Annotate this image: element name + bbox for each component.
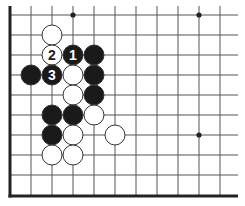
black-stone-icon	[84, 85, 104, 105]
white-stone	[42, 25, 62, 45]
white-stone	[63, 65, 83, 85]
black-stone	[21, 65, 41, 85]
move-number-label: 3	[48, 67, 56, 83]
star-point-icon	[196, 12, 201, 17]
white-stone	[105, 125, 125, 145]
black-stone-move-3: 3	[42, 65, 62, 85]
white-stone-icon	[84, 105, 104, 125]
move-number-label: 1	[69, 47, 77, 63]
white-stone	[63, 125, 83, 145]
black-stone	[84, 45, 104, 65]
white-stone	[63, 85, 83, 105]
go-board-canvas: 213	[0, 0, 245, 206]
white-stone-icon	[42, 25, 62, 45]
black-stone	[63, 105, 83, 125]
black-stone-icon	[42, 105, 62, 125]
black-stone	[42, 125, 62, 145]
white-stone-icon	[63, 125, 83, 145]
black-stone-icon	[42, 125, 62, 145]
black-stone-icon	[63, 105, 83, 125]
black-stone-icon	[84, 45, 104, 65]
black-stone-icon	[21, 65, 41, 85]
white-stone-icon	[63, 65, 83, 85]
star-point-icon	[196, 132, 201, 137]
white-stone	[42, 145, 62, 165]
black-stone-icon	[84, 65, 104, 85]
black-stone-move-1: 1	[63, 45, 83, 65]
move-number-label: 2	[48, 47, 56, 63]
black-stone	[42, 105, 62, 125]
go-board: 213	[0, 0, 245, 206]
white-stone-icon	[42, 145, 62, 165]
black-stone	[84, 85, 104, 105]
white-stone	[63, 145, 83, 165]
black-stone	[84, 65, 104, 85]
white-stone-icon	[63, 145, 83, 165]
white-stone-move-2: 2	[42, 45, 62, 65]
star-point-icon	[70, 12, 75, 17]
white-stone-icon	[63, 85, 83, 105]
white-stone	[84, 105, 104, 125]
white-stone-icon	[105, 125, 125, 145]
